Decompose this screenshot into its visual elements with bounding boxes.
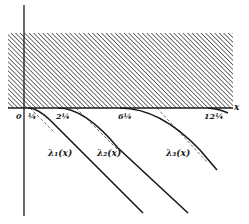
- curve-label-lambda-3: λ₃(x): [166, 149, 190, 158]
- hatched-region: [8, 33, 233, 108]
- origin-label: 0: [16, 112, 22, 120]
- tick-label-3: 6¼: [118, 112, 132, 120]
- curve-lambda-3: [120, 108, 217, 170]
- x-axis-label: x: [234, 103, 239, 112]
- curve-label-lambda-2: λ₂(x): [97, 149, 121, 158]
- tick-label-2: 2¼: [56, 112, 70, 120]
- tick-label-1: ¼: [28, 112, 36, 120]
- eigenvalue-curves: [28, 108, 228, 213]
- curve-lambda-1: [28, 108, 143, 213]
- eigenvalue-curves-diagram: x 0 ¼ 2¼ 6¼ 12¼ λ₁(x) λ₂(x) λ₃(x): [0, 0, 249, 224]
- curve-label-lambda-1: λ₁(x): [48, 149, 72, 158]
- tick-label-4: 12¼: [204, 112, 223, 120]
